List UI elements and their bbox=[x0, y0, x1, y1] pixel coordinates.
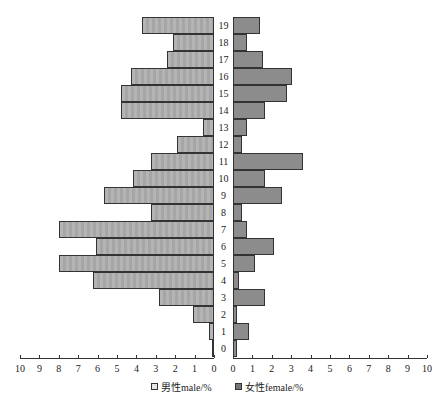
category-label: 4 bbox=[215, 272, 233, 289]
category-label: 10 bbox=[215, 170, 233, 187]
axis-tick-label: 10 bbox=[417, 363, 437, 374]
axis-tick bbox=[175, 355, 176, 358]
category-label: 2 bbox=[215, 306, 233, 323]
legend-female-label: 女性female/% bbox=[245, 379, 303, 394]
category-label: 5 bbox=[215, 255, 233, 272]
bar-female bbox=[233, 272, 239, 289]
legend-male: 男性male/% bbox=[151, 379, 212, 394]
axis-tick-label: 6 bbox=[339, 363, 359, 374]
axis-tick bbox=[136, 355, 137, 358]
category-label: 18 bbox=[215, 34, 233, 51]
bar-female bbox=[233, 187, 282, 204]
bar-female bbox=[233, 68, 292, 85]
bar-male bbox=[93, 272, 214, 289]
bar-male bbox=[193, 306, 214, 323]
category-label: 19 bbox=[215, 17, 233, 34]
bar-male bbox=[121, 102, 214, 119]
category-label: 0 bbox=[215, 340, 233, 357]
axis-tick-label: 4 bbox=[126, 363, 146, 374]
axis-tick-label: 7 bbox=[359, 363, 379, 374]
category-label: 1 bbox=[215, 323, 233, 340]
axis-tick-label: 3 bbox=[281, 363, 301, 374]
category-label: 7 bbox=[215, 221, 233, 238]
category-label: 6 bbox=[215, 238, 233, 255]
bar-male bbox=[159, 289, 214, 306]
category-label: 16 bbox=[215, 68, 233, 85]
axis-tick bbox=[117, 355, 118, 358]
axis-tick bbox=[39, 355, 40, 358]
bar-female bbox=[233, 204, 242, 221]
bar-male bbox=[59, 255, 214, 272]
axis-tick-label: 3 bbox=[146, 363, 166, 374]
bar-female bbox=[233, 153, 303, 170]
axis-tick-label: 5 bbox=[320, 363, 340, 374]
bar-male bbox=[167, 51, 214, 68]
axis-tick-label: 9 bbox=[398, 363, 418, 374]
bar-female bbox=[233, 34, 247, 51]
category-label: 13 bbox=[215, 119, 233, 136]
axis-tick-label: 8 bbox=[49, 363, 69, 374]
axis-tick bbox=[272, 355, 273, 358]
legend-female: 女性female/% bbox=[235, 379, 303, 394]
bar-female bbox=[233, 289, 265, 306]
legend-female-swatch bbox=[235, 383, 242, 390]
right-x-axis bbox=[233, 358, 427, 359]
axis-tick bbox=[98, 355, 99, 358]
axis-tick-label: 9 bbox=[29, 363, 49, 374]
category-label: 15 bbox=[215, 85, 233, 102]
bar-female bbox=[233, 119, 247, 136]
axis-tick bbox=[311, 355, 312, 358]
bar-male bbox=[177, 136, 214, 153]
bar-male bbox=[203, 119, 214, 136]
bar-female bbox=[233, 306, 237, 323]
bar-male bbox=[142, 17, 214, 34]
axis-tick-label: 4 bbox=[301, 363, 321, 374]
category-label: 3 bbox=[215, 289, 233, 306]
bar-female bbox=[233, 17, 260, 34]
axis-tick bbox=[369, 355, 370, 358]
axis-tick-label: 7 bbox=[68, 363, 88, 374]
axis-tick bbox=[388, 355, 389, 358]
axis-tick bbox=[330, 355, 331, 358]
bar-male bbox=[131, 68, 214, 85]
axis-tick bbox=[252, 355, 253, 358]
bar-female bbox=[233, 255, 255, 272]
bar-male bbox=[104, 187, 214, 204]
bar-male bbox=[121, 85, 214, 102]
axis-tick bbox=[233, 355, 234, 358]
bar-male bbox=[133, 170, 214, 187]
category-label: 14 bbox=[215, 102, 233, 119]
bar-female bbox=[233, 51, 263, 68]
population-pyramid-chart: 0123456789101112131415161718191098765432… bbox=[0, 0, 443, 406]
bar-female bbox=[233, 136, 242, 153]
axis-tick bbox=[214, 355, 215, 358]
axis-tick bbox=[20, 355, 21, 358]
axis-tick bbox=[78, 355, 79, 358]
axis-tick bbox=[408, 355, 409, 358]
axis-tick-label: 2 bbox=[262, 363, 282, 374]
axis-tick-label: 6 bbox=[88, 363, 108, 374]
axis-tick-label: 1 bbox=[185, 363, 205, 374]
bar-male bbox=[151, 204, 214, 221]
axis-tick bbox=[59, 355, 60, 358]
category-label: 12 bbox=[215, 136, 233, 153]
bar-female bbox=[233, 221, 247, 238]
bar-male bbox=[209, 323, 214, 340]
axis-tick bbox=[349, 355, 350, 358]
category-label: 9 bbox=[215, 187, 233, 204]
bar-female bbox=[233, 323, 249, 340]
bar-male bbox=[59, 221, 214, 238]
axis-tick bbox=[291, 355, 292, 358]
category-label: 11 bbox=[215, 153, 233, 170]
bar-female bbox=[233, 238, 274, 255]
bar-female bbox=[233, 85, 287, 102]
category-label: 8 bbox=[215, 204, 233, 221]
bar-male bbox=[173, 34, 214, 51]
axis-tick bbox=[156, 355, 157, 358]
bar-female bbox=[233, 170, 265, 187]
bar-female bbox=[233, 102, 265, 119]
axis-tick bbox=[427, 355, 428, 358]
bar-male bbox=[151, 153, 214, 170]
legend-male-label: 男性male/% bbox=[161, 379, 212, 394]
axis-tick-label: 2 bbox=[165, 363, 185, 374]
